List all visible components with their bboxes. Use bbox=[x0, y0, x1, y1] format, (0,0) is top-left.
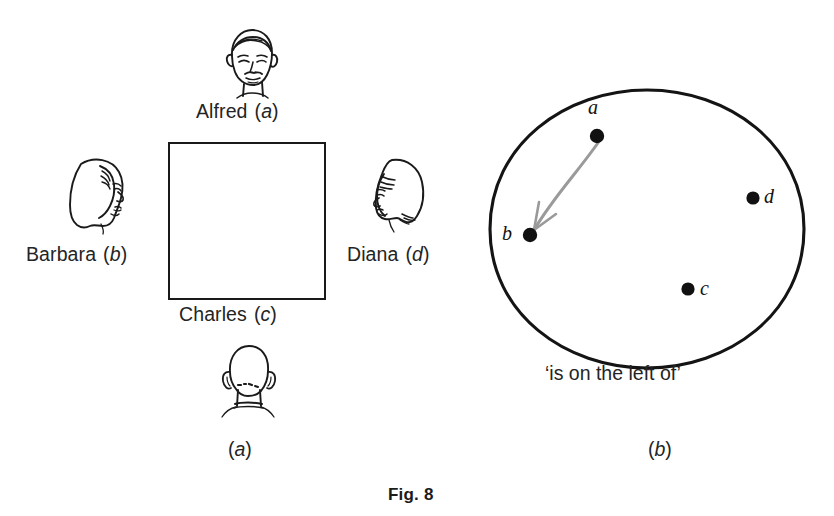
label-diana-symbol: d bbox=[412, 243, 423, 265]
panel-b-letter: (b) bbox=[648, 438, 672, 461]
portrait-alfred bbox=[210, 22, 288, 100]
label-charles-paren-close: ) bbox=[270, 303, 277, 325]
panel-a-paren-close: ) bbox=[245, 438, 252, 460]
panel-a: Alfred(a) bbox=[0, 0, 440, 480]
label-barbara-paren-close: ) bbox=[121, 243, 128, 265]
node-dot-c bbox=[679, 280, 697, 298]
figure-caption: Fig. 8 bbox=[388, 485, 434, 505]
portrait-barbara bbox=[56, 152, 138, 238]
face-front-male-icon bbox=[210, 22, 288, 100]
node-label-b: b bbox=[502, 222, 512, 245]
panel-b: a b d c ‘is on the left of’ (b) bbox=[440, 0, 834, 480]
label-barbara: Barbara(b) bbox=[26, 243, 127, 266]
label-alfred-paren-close: ) bbox=[272, 100, 279, 122]
label-charles-symbol: c bbox=[261, 303, 271, 325]
node-label-a: a bbox=[588, 96, 598, 119]
node-label-d: d bbox=[764, 185, 774, 208]
panel-b-paren-close: ) bbox=[665, 438, 672, 460]
label-alfred-symbol: a bbox=[261, 100, 272, 122]
node-dot-b bbox=[521, 226, 539, 244]
panel-b-symbol: b bbox=[655, 438, 666, 460]
label-diana-name: Diana bbox=[347, 243, 398, 265]
label-charles-paren-open: ( bbox=[254, 303, 261, 325]
panel-a-symbol: a bbox=[235, 438, 246, 460]
head-back-male-icon bbox=[208, 338, 288, 420]
label-alfred-name: Alfred bbox=[196, 100, 248, 122]
label-barbara-paren-open: ( bbox=[103, 243, 110, 265]
label-barbara-name: Barbara bbox=[26, 243, 96, 265]
face-profile-right-female-icon bbox=[56, 152, 138, 238]
node-dot-d bbox=[744, 189, 762, 207]
face-profile-left-female-icon bbox=[356, 152, 438, 238]
node-dot-a bbox=[588, 127, 606, 145]
portrait-diana bbox=[356, 152, 438, 238]
label-charles: Charles(c) bbox=[179, 303, 277, 326]
relation-caption: ‘is on the left of’ bbox=[545, 362, 681, 385]
node-label-c: c bbox=[700, 277, 709, 300]
figure-8-root: Alfred(a) bbox=[0, 0, 834, 516]
label-barbara-symbol: b bbox=[110, 243, 121, 265]
label-alfred: Alfred(a) bbox=[196, 100, 279, 123]
label-charles-name: Charles bbox=[179, 303, 247, 325]
panel-a-letter: (a) bbox=[228, 438, 252, 461]
table-square bbox=[168, 142, 326, 300]
label-diana: Diana(d) bbox=[347, 243, 430, 266]
portrait-charles bbox=[208, 338, 288, 420]
label-diana-paren-close: ) bbox=[423, 243, 430, 265]
